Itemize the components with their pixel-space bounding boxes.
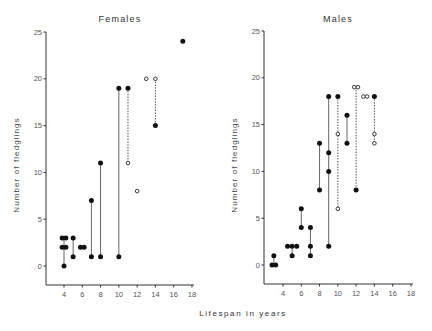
open-circle-marker (126, 161, 130, 165)
axes: 05101520254681012141618 (34, 28, 196, 299)
filled-circle-marker (294, 244, 299, 249)
filled-circle-marker (89, 254, 94, 259)
connector-lines (64, 79, 155, 266)
filled-circle-marker (63, 245, 68, 250)
x-tick-label: 16 (170, 290, 178, 299)
filled-circle-marker (317, 141, 322, 146)
filled-circle-marker (290, 244, 295, 249)
filled-circle-marker (299, 225, 304, 230)
open-circle-marker (373, 142, 377, 146)
x-tick-label: 6 (80, 290, 84, 299)
open-circle-marker (362, 95, 366, 99)
x-tick-label: 12 (352, 289, 360, 298)
filled-circle-marker (308, 253, 313, 258)
axes: 05101520254681012141618 (252, 27, 415, 298)
filled-circle-marker (116, 86, 121, 91)
x-tick-label: 18 (188, 290, 196, 299)
x-tick-label: 10 (115, 290, 123, 299)
filled-circle-marker (372, 94, 377, 99)
x-axis-label: Lifespan in years (199, 309, 287, 318)
open-circle-marker (352, 85, 356, 89)
y-tick-label: 10 (252, 167, 260, 176)
y-tick-label: 0 (38, 262, 42, 271)
filled-circle-marker (98, 254, 103, 259)
y-tick-label: 15 (34, 121, 42, 130)
y-tick-label: 25 (34, 28, 42, 37)
y-tick-label: 20 (252, 73, 260, 82)
filled-circle-marker (344, 113, 349, 118)
y-tick-label: 10 (34, 168, 42, 177)
males-panel: Males Number of fledglings 0510152025468… (230, 14, 415, 298)
open-circle-marker (336, 207, 340, 211)
x-tick-label: 12 (133, 290, 141, 299)
filled-circle-marker (290, 253, 295, 258)
filled-circle-marker (344, 141, 349, 146)
open-circle-marker (356, 85, 360, 89)
x-tick-label: 4 (281, 289, 285, 298)
females-panel: Females Number of fledglings 05101520254… (12, 14, 196, 299)
filled-circle-marker (71, 235, 76, 240)
filled-circle-marker (285, 244, 290, 249)
y-tick-label: 0 (256, 261, 260, 270)
data-points (270, 85, 377, 267)
open-circle-marker (135, 189, 139, 193)
open-circle-marker (336, 132, 340, 136)
y-axis-label: Number of fledglings (230, 117, 239, 212)
filled-circle-marker (308, 244, 313, 249)
filled-circle-marker (153, 123, 158, 128)
filled-circle-marker (326, 169, 331, 174)
filled-circle-marker (82, 245, 87, 250)
filled-circle-marker (354, 188, 359, 193)
filled-circle-marker (71, 254, 76, 259)
panel-title: Females (99, 14, 142, 24)
x-tick-label: 8 (98, 290, 102, 299)
filled-circle-marker (273, 263, 278, 268)
y-tick-label: 5 (38, 215, 42, 224)
filled-circle-marker (326, 94, 331, 99)
y-axis-label: Number of fledglings (12, 117, 21, 212)
panel-title: Males (323, 14, 353, 24)
data-points (60, 39, 186, 269)
filled-circle-marker (98, 161, 103, 166)
open-circle-marker (144, 77, 148, 81)
y-tick-label: 25 (252, 27, 260, 36)
connector-lines (274, 87, 375, 265)
x-tick-label: 4 (62, 290, 66, 299)
y-tick-label: 20 (34, 74, 42, 83)
y-tick-label: 15 (252, 120, 260, 129)
x-tick-label: 16 (389, 289, 397, 298)
x-tick-label: 14 (370, 289, 378, 298)
x-tick-label: 6 (299, 289, 303, 298)
filled-circle-marker (116, 254, 121, 259)
filled-circle-marker (308, 225, 313, 230)
x-tick-label: 14 (151, 290, 159, 299)
filled-circle-marker (326, 244, 331, 249)
filled-circle-marker (299, 206, 304, 211)
open-circle-marker (154, 77, 158, 81)
filled-circle-marker (271, 253, 276, 258)
filled-circle-marker (62, 264, 67, 269)
filled-circle-marker (180, 39, 185, 44)
filled-circle-marker (317, 188, 322, 193)
figure: Females Number of fledglings 05101520254… (0, 0, 432, 331)
filled-circle-marker (326, 150, 331, 155)
x-tick-label: 18 (407, 289, 415, 298)
filled-circle-marker (89, 198, 94, 203)
open-circle-marker (365, 95, 369, 99)
open-circle-marker (373, 132, 377, 136)
y-tick-label: 5 (256, 214, 260, 223)
filled-circle-marker (335, 94, 340, 99)
x-tick-label: 8 (317, 289, 321, 298)
filled-circle-marker (63, 235, 68, 240)
filled-circle-marker (125, 86, 130, 91)
x-tick-label: 10 (334, 289, 342, 298)
